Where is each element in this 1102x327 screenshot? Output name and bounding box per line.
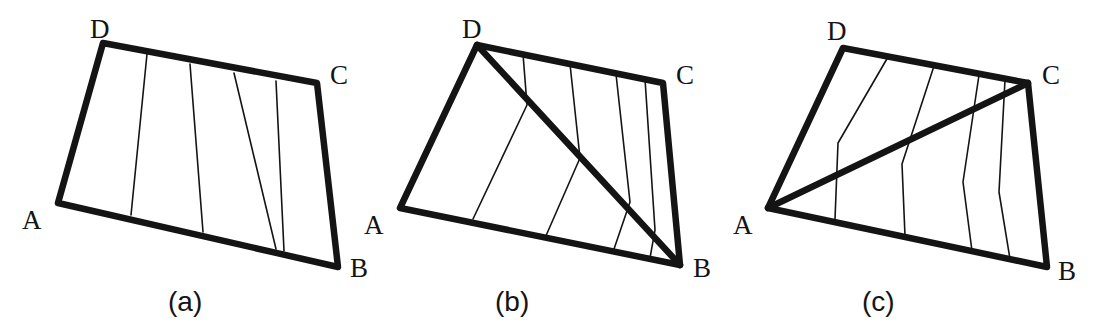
interior-division-line xyxy=(131,54,147,215)
interior-division-line xyxy=(613,74,630,252)
quadrilateral-c xyxy=(768,48,1047,267)
interior-division-line xyxy=(835,57,888,219)
vertex-label-B: B xyxy=(693,255,711,282)
interior-division-line xyxy=(473,54,527,219)
quad-diagonal-AC xyxy=(768,83,1028,208)
quad-outline xyxy=(58,43,338,267)
quadrilateral-b xyxy=(400,45,680,265)
vertex-label-D: D xyxy=(90,16,110,43)
interior-division-line xyxy=(190,64,203,232)
panel-caption: (a) xyxy=(168,288,202,316)
vertex-label-C: C xyxy=(1042,62,1060,89)
panel-caption: (c) xyxy=(862,288,895,316)
vertex-label-A: A xyxy=(22,207,42,234)
vertex-label-D: D xyxy=(827,18,847,45)
figure-root: DCAB(a)DCAB(b)DCAB(c) xyxy=(0,0,1102,327)
vertex-label-A: A xyxy=(364,212,384,239)
quadrilateral-a xyxy=(58,43,338,267)
interior-division-line xyxy=(999,80,1010,259)
vertex-label-A: A xyxy=(733,212,753,239)
quad-outline xyxy=(400,45,680,265)
vertex-label-C: C xyxy=(676,62,694,89)
vertex-label-D: D xyxy=(462,16,482,43)
interior-division-line xyxy=(234,73,276,249)
vertex-label-C: C xyxy=(330,62,348,89)
vertex-label-B: B xyxy=(350,255,368,282)
interior-division-line xyxy=(963,75,979,251)
panel-caption: (b) xyxy=(495,288,529,316)
vertex-label-B: B xyxy=(1058,258,1076,285)
interior-division-line xyxy=(902,66,934,236)
interior-division-line xyxy=(276,81,284,251)
figure-drawing-canvas xyxy=(0,0,1102,327)
